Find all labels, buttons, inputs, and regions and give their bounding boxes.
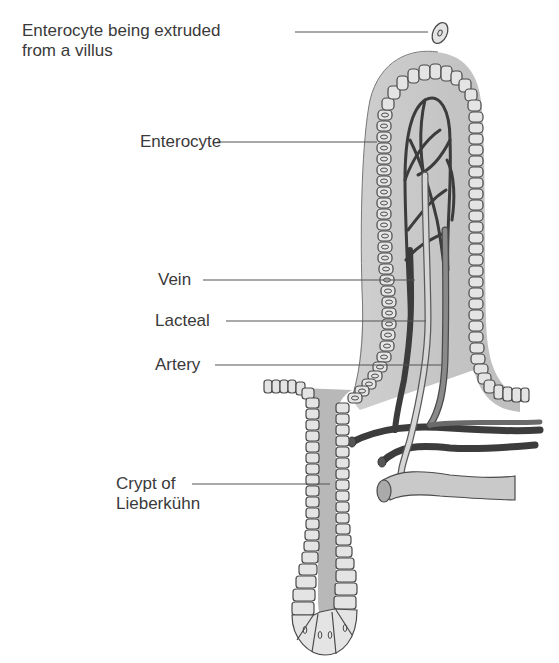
label-crypt-line1: Crypt of — [116, 474, 200, 494]
label-artery: Artery — [155, 355, 200, 375]
label-crypt: Crypt of Lieberkühn — [116, 474, 200, 514]
label-extruded-line1: Enterocyte being extruded — [22, 21, 220, 41]
label-artery-text: Artery — [155, 355, 200, 375]
villus-illustration — [0, 0, 559, 663]
label-lacteal: Lacteal — [155, 311, 210, 331]
label-crypt-line2: Lieberkühn — [116, 494, 200, 514]
label-vein-text: Vein — [158, 270, 191, 290]
label-enterocyte-text: Enterocyte — [140, 132, 221, 152]
vein-ends — [348, 437, 386, 467]
crypt — [264, 380, 357, 655]
villus-epithelium-right — [469, 112, 529, 402]
villus-diagram: Enterocyte being extruded from a villus … — [0, 0, 559, 663]
label-extruded-line2: from a villus — [22, 41, 220, 61]
label-enterocyte: Enterocyte — [140, 132, 221, 152]
label-lacteal-text: Lacteal — [155, 311, 210, 331]
label-extruded-enterocyte: Enterocyte being extruded from a villus — [22, 21, 220, 61]
lymphatic-vessel — [377, 472, 515, 502]
label-vein: Vein — [158, 270, 191, 290]
extruded-enterocyte-shape — [429, 20, 451, 46]
